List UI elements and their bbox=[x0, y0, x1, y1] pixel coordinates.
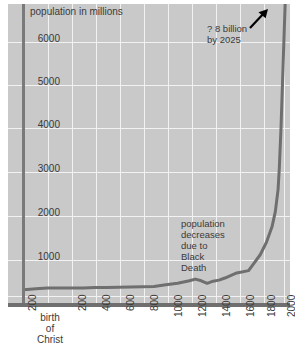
y-axis-title: population in millions bbox=[30, 6, 123, 17]
x-tick-label: 200 bbox=[27, 294, 38, 311]
y-axis-line bbox=[22, 4, 25, 306]
y-tick-label: 6000 bbox=[26, 33, 60, 44]
y-tick-label: 1000 bbox=[26, 251, 60, 262]
population-curve-line bbox=[24, 4, 287, 290]
x-tick-label: 1800 bbox=[266, 295, 277, 317]
x-tick-label: 1600 bbox=[245, 295, 256, 317]
x-tick-label: 800 bbox=[149, 294, 160, 311]
y-tick-label: 2000 bbox=[26, 207, 60, 218]
x-tick-label: 400 bbox=[101, 294, 112, 311]
annotation-future-projection: ? 8 billion by 2025 bbox=[207, 23, 247, 45]
annotation-arrow-icon bbox=[248, 8, 270, 30]
y-tick-label: 5000 bbox=[26, 76, 60, 87]
x-tick-label: 200 bbox=[77, 294, 88, 311]
x-tick-label: 1200 bbox=[197, 295, 208, 317]
x-tick-label-birth-of-christ: birth of Christ bbox=[30, 312, 70, 345]
annotation-black-death: population decreases due to Black Death bbox=[181, 218, 225, 273]
x-tick-label: 1400 bbox=[221, 295, 232, 317]
x-tick-label: 1000 bbox=[173, 295, 184, 317]
y-tick-label: 4000 bbox=[26, 119, 60, 130]
x-tick-label: 600 bbox=[125, 294, 136, 311]
population-growth-chart: population in millions 6000 5000 4000 30… bbox=[0, 0, 295, 356]
x-tick-label: 2000 bbox=[286, 295, 295, 317]
y-tick-label: 3000 bbox=[26, 163, 60, 174]
